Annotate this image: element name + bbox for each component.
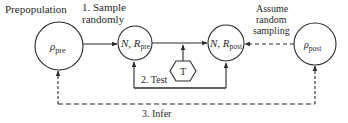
n-r-pre-symbol: N, R — [120, 37, 141, 49]
test-node: T — [170, 61, 196, 81]
step2-label: 2. Test — [141, 74, 168, 85]
node-n-r-pre: N, Rpre — [118, 26, 152, 60]
n-r-post-symbol: N, R — [209, 37, 230, 49]
statistical-inference-diagram: Prepopulation 1. Sample randomly Assume … — [0, 0, 348, 123]
assume-label-line1: Assume — [256, 3, 289, 14]
infer-loop — [58, 66, 315, 104]
svg-text:N, Rpost: N, Rpost — [209, 37, 243, 51]
svg-text:ρpre: ρpre — [49, 40, 66, 55]
assume-label-line3: sampling — [253, 25, 290, 36]
svg-text:N, Rpre: N, Rpre — [120, 37, 151, 51]
prepopulation-label: Prepopulation — [5, 3, 67, 15]
node-n-r-post: N, Rpost — [208, 25, 244, 61]
rho-pre-subscript: pre — [55, 46, 66, 55]
test-node-label: T — [180, 66, 186, 77]
svg-text:ρpost: ρpost — [303, 39, 322, 53]
step1-label-line2: randomly — [82, 13, 125, 25]
step3-label: 3. Infer — [142, 108, 172, 119]
node-rho-post: ρpost — [294, 23, 336, 65]
n-r-post-subscript: post — [230, 42, 243, 51]
node-rho-pre: ρpre — [35, 22, 83, 70]
n-r-pre-subscript: pre — [141, 42, 151, 51]
step1-label-line1: 1. Sample — [82, 1, 126, 13]
rho-post-subscript: post — [309, 44, 322, 53]
assume-label-line2: random — [256, 14, 287, 25]
